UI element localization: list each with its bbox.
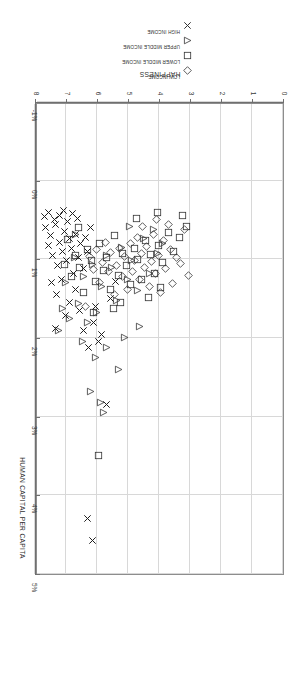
- data-point-triangle-left: [139, 234, 148, 243]
- data-point-triangle-left: [79, 272, 88, 281]
- data-point-square: [75, 263, 84, 272]
- data-point-x: [67, 244, 76, 253]
- data-point-triangle-left: [74, 299, 83, 308]
- x-tick-label: 5: [126, 84, 133, 104]
- data-point-x: [68, 209, 77, 218]
- data-point-diamond: [159, 236, 168, 245]
- data-point-square: [133, 255, 142, 264]
- data-point-diamond: [168, 279, 177, 288]
- data-point-diamond: [138, 222, 147, 231]
- data-point-x: [55, 238, 64, 247]
- data-point-x: [83, 247, 92, 256]
- data-point-diamond: [145, 282, 154, 291]
- data-point-x: [106, 294, 115, 303]
- data-point-diamond: [130, 256, 139, 265]
- data-point-triangle-left: [149, 225, 158, 234]
- x-marker-icon: [183, 26, 192, 35]
- data-point-triangle-left: [97, 282, 106, 291]
- gridline-vertical: [127, 104, 128, 574]
- data-point-triangle-left: [112, 296, 121, 305]
- data-point-triangle-left: [78, 337, 87, 346]
- data-point-x: [73, 214, 82, 223]
- x-tick-label: 6: [95, 84, 102, 104]
- data-point-x: [79, 326, 88, 335]
- data-point-diamond: [135, 275, 144, 284]
- gridline-horizontal: [37, 180, 283, 181]
- data-point-diamond: [112, 261, 121, 270]
- y-tick-label: 5%: [31, 577, 38, 599]
- data-point-square: [175, 233, 184, 242]
- data-point-diamond: [101, 238, 110, 247]
- data-point-diamond: [152, 216, 161, 225]
- x-tick-label: 1: [250, 84, 257, 104]
- x-tick-label: 3: [188, 84, 195, 104]
- gridline-horizontal: [37, 416, 283, 417]
- y-tick-mark: [36, 338, 40, 339]
- data-point-diamond: [115, 244, 124, 253]
- gridline-vertical: [65, 104, 66, 574]
- y-tick-label: 4%: [31, 498, 38, 520]
- data-point-x: [84, 343, 93, 352]
- data-point-triangle-left: [107, 263, 116, 272]
- data-point-square: [79, 288, 88, 297]
- legend-label: UPPER MIDDLE INCOME: [123, 43, 180, 48]
- y-tick-mark: [36, 102, 40, 103]
- data-point-x: [50, 216, 59, 225]
- gridline-vertical: [158, 104, 159, 574]
- data-point-diamond: [118, 272, 127, 281]
- gridline-horizontal: [37, 573, 283, 574]
- data-point-triangle-left: [54, 326, 63, 335]
- gridline-horizontal: [37, 337, 283, 338]
- legend-item-lower-middle-income: LOWER MIDDLE INCOME: [114, 54, 192, 67]
- legend-item-high-income: HIGH INCOME: [114, 24, 192, 37]
- data-point-x: [102, 400, 111, 409]
- data-point-x: [79, 264, 88, 273]
- data-point-square: [178, 211, 187, 220]
- data-point-diamond: [110, 290, 119, 299]
- data-point-diamond: [164, 220, 173, 229]
- y-tick-label: -1%: [31, 105, 38, 127]
- data-point-diamond: [133, 233, 142, 242]
- y-tick-mark: [36, 417, 40, 418]
- data-point-square: [116, 298, 125, 307]
- data-point-square: [109, 304, 118, 313]
- data-point-square: [110, 231, 119, 240]
- data-point-triangle-left: [102, 343, 111, 352]
- data-point-diamond: [166, 245, 175, 254]
- data-point-x: [59, 206, 68, 215]
- data-point-triangle-left: [133, 286, 142, 295]
- y-tick-label: 3%: [31, 419, 38, 441]
- triangle-left-marker-icon: [183, 41, 192, 50]
- x-axis-title: HAPPINESS: [110, 71, 210, 78]
- data-point-x: [111, 277, 120, 286]
- x-tick-label: 0: [281, 84, 288, 104]
- gridline-vertical: [96, 104, 97, 574]
- data-point-x: [75, 306, 84, 315]
- data-point-diamond: [176, 259, 185, 268]
- data-point-square: [99, 266, 108, 275]
- y-tick-mark: [36, 495, 40, 496]
- figure-rotation-wrapper: LOW INCOMELOWER MIDDLE INCOMEUPPER MIDDL…: [0, 0, 304, 678]
- data-point-x: [46, 231, 55, 240]
- legend-label: HIGH INCOME: [147, 28, 180, 33]
- data-point-x: [97, 330, 106, 339]
- data-point-square: [164, 228, 173, 237]
- data-point-square: [169, 247, 178, 256]
- data-point-square: [130, 244, 139, 253]
- data-point-triangle-left: [62, 278, 71, 287]
- data-point-x: [41, 223, 50, 232]
- data-point-diamond: [151, 269, 160, 278]
- data-point-square: [106, 285, 115, 294]
- legend-item-upper-middle-income: UPPER MIDDLE INCOME: [114, 39, 192, 52]
- data-point-diamond: [180, 225, 189, 234]
- data-point-diamond: [142, 242, 151, 251]
- data-point-x: [86, 223, 95, 232]
- data-point-diamond: [161, 264, 170, 273]
- scatter-chart-figure: LOW INCOMELOWER MIDDLE INCOMEUPPER MIDDL…: [0, 0, 304, 678]
- data-point-triangle-left: [145, 269, 154, 278]
- y-tick-label: 1%: [31, 262, 38, 284]
- data-point-diamond: [120, 252, 129, 261]
- gridline-vertical: [282, 104, 283, 574]
- data-point-x: [40, 212, 49, 221]
- data-point-triangle-left: [71, 230, 80, 239]
